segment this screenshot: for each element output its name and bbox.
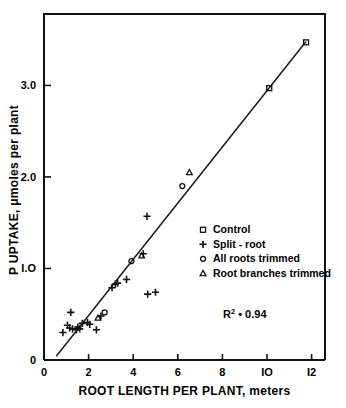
series-all-roots-trimmed [102,184,185,315]
data-point-plus [123,276,130,283]
legend-item: Split - root [199,238,266,250]
y-axis-title: P UPTAKE, μmoles per plant [7,105,21,275]
x-tick-label: I2 [307,366,316,378]
x-tick-label: 0 [41,366,47,378]
data-point-plus [59,329,66,336]
legend-item: Control [201,223,251,235]
scatter-plot-figure: 02468IOI20I.O2.03.0 ControlSplit - rootA… [0,0,346,408]
data-point-plus [144,290,151,297]
data-point-plus [67,309,74,316]
x-tick-label: 4 [130,366,137,378]
y-tick-label: 3.0 [21,79,36,91]
data-point-plus [93,326,100,333]
data-point-plus [143,213,150,220]
legend-marker-plus [199,241,206,248]
legend-label: All roots trimmed [213,252,300,264]
legend-item: Root branches trimmed [200,267,331,279]
x-tick-label: IO [261,366,273,378]
legend-marker-circle [201,256,206,261]
plot-legend: ControlSplit - rootAll roots trimmedRoot… [199,223,330,279]
legend-marker-triangle [200,270,206,275]
data-point-circle [102,310,107,315]
y-tick-label: 2.0 [21,171,36,183]
r-squared-annotation: R2 • 0.94 [223,307,267,321]
data-point-circle [180,184,185,189]
series-split-root [59,213,159,336]
x-tick-label: 6 [175,366,181,378]
legend-item: All roots trimmed [201,252,300,264]
x-tick-label: 8 [219,366,225,378]
regression-line [56,41,306,356]
y-tick-label: 0 [30,354,36,366]
legend-label: Root branches trimmed [213,267,331,279]
series-root-branches-trimmed [95,170,192,321]
data-point-triangle [187,170,193,175]
legend-label: Split - root [213,238,266,250]
r-squared-text: R2 • 0.94 [223,307,267,321]
y-tick-label: I.O [21,262,36,274]
x-axis-title: ROOT LENGTH PER PLANT, meters [78,384,290,398]
x-tick-label: 2 [86,366,92,378]
legend-label: Control [213,223,250,235]
data-point-plus [152,289,159,296]
plot-canvas: 02468IOI20I.O2.03.0 ControlSplit - rootA… [0,0,346,408]
legend-marker-square [201,227,206,232]
